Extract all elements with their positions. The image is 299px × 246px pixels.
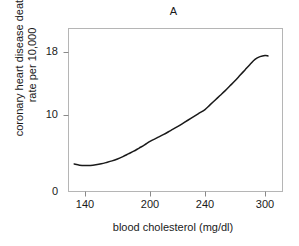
y-axis-label-line2: rate per 10,000 bbox=[26, 0, 39, 153]
x-tick-label-200: 200 bbox=[130, 198, 170, 210]
y-axis-ticks bbox=[64, 53, 69, 116]
x-tick-label-300: 300 bbox=[245, 198, 285, 210]
y-axis-label: coronary heart disease death rate per 10… bbox=[13, 0, 39, 153]
x-axis-label: blood cholesterol (mg/dl) bbox=[58, 221, 288, 233]
data-curve bbox=[74, 55, 268, 165]
y-axis-label-line1: coronary heart disease death bbox=[13, 0, 26, 153]
figure-panel: A 18 10 0 140 200 240 300 blood choleste… bbox=[0, 0, 299, 246]
x-tick-label-240: 240 bbox=[185, 198, 225, 210]
x-axis-ticks bbox=[86, 192, 266, 197]
x-tick-label-140: 140 bbox=[65, 198, 105, 210]
plot-frame bbox=[69, 29, 283, 192]
y-tick-label-0: 0 bbox=[30, 185, 58, 197]
